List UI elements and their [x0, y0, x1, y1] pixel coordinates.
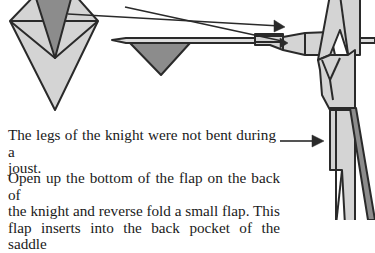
flap-note-line-2: the knight and reverse fold a small flap…	[8, 203, 280, 220]
legs-note-line-1: The legs of the knight were not bent dur…	[8, 127, 276, 160]
flap-note-line-3: flap inserts into the back pocket of the…	[8, 220, 280, 253]
arrow-to-legs	[280, 135, 324, 147]
arrow-from-kite-to-lance-hand	[68, 14, 285, 32]
flap-note-line-1: Open up the bottom of the flap on the ba…	[8, 170, 280, 203]
lance-with-pennant	[112, 38, 270, 75]
flap-note: Open up the bottom of the flap on the ba…	[8, 170, 280, 253]
kite-flap-detail	[10, 0, 98, 110]
